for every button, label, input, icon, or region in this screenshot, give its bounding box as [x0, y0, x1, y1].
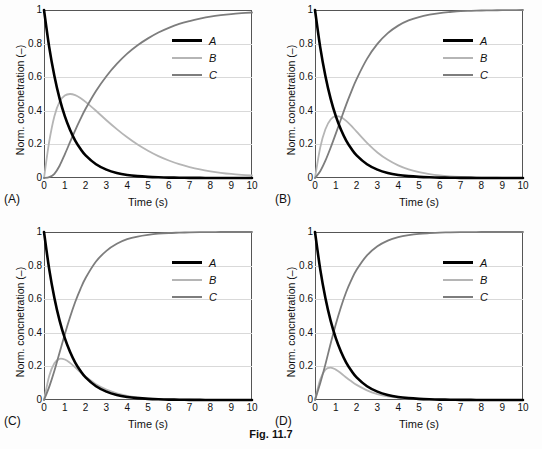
legend-label-b: B: [209, 274, 216, 286]
x-tick-label: 4: [118, 180, 136, 192]
y-tick-label: 0.6: [16, 294, 42, 304]
y-tick-labels-b: 00.20.40.60.81: [283, 10, 313, 178]
y-tick-label: 0.4: [16, 328, 42, 338]
plot-area-d: A B C: [315, 232, 523, 400]
legend-row-a-series: A: [172, 32, 246, 49]
x-tick-label: 3: [97, 180, 115, 192]
x-axis-title: Time (s): [315, 196, 523, 208]
curve-b: [315, 368, 523, 400]
x-tick-label: 6: [431, 180, 449, 192]
plot-area-c: A B C: [44, 232, 252, 400]
x-tick-label: 8: [201, 180, 219, 192]
panel-b: Norm. concnetration (–) 00.20.40.60.81 A…: [271, 0, 542, 222]
x-tick-label: 9: [222, 402, 240, 414]
panel-a: Norm. concnetration (–) 00.20.40.60.81 A…: [0, 0, 271, 222]
panel-d: Norm. concnetration (–) 00.20.40.60.81 A…: [271, 222, 542, 444]
x-tick-label: 7: [181, 180, 199, 192]
x-tick-label: 0: [306, 180, 324, 192]
x-tick-label: 1: [56, 180, 74, 192]
legend-label-c: C: [209, 69, 217, 81]
y-tick-label: 0.2: [16, 139, 42, 149]
x-tick-label: 8: [472, 402, 490, 414]
y-tick-label: 1: [287, 5, 313, 15]
x-tick-label: 9: [493, 402, 511, 414]
y-tick-label: 0.8: [287, 261, 313, 271]
x-axis-title: Time (s): [44, 196, 252, 208]
legend-row-b-series: B: [443, 49, 517, 66]
legend-swatch-a-icon: [172, 261, 202, 264]
x-tick-label: 6: [160, 402, 178, 414]
legend-c: A B C: [172, 254, 246, 305]
legend-label-b: B: [480, 52, 487, 64]
legend-row-c-series: C: [172, 66, 246, 83]
legend-label-a: A: [209, 257, 216, 269]
x-tick-label: 4: [389, 180, 407, 192]
panel-label-c: (C): [4, 414, 21, 428]
x-tick-labels-d: 012345678910: [315, 402, 523, 416]
x-tick-label: 6: [160, 180, 178, 192]
x-tick-label: 0: [35, 180, 53, 192]
figure-caption: Fig. 11.7: [0, 428, 542, 440]
plot-area-a: A B C: [44, 10, 252, 178]
x-tick-label: 1: [327, 402, 345, 414]
legend-label-c: C: [209, 291, 217, 303]
y-tick-label: 0.6: [287, 294, 313, 304]
x-tick-labels-c: 012345678910: [44, 402, 252, 416]
legend-row-a-series: A: [443, 254, 517, 271]
x-tick-label: 2: [348, 180, 366, 192]
x-tick-label: 7: [452, 180, 470, 192]
y-tick-label: 0.8: [287, 39, 313, 49]
x-tick-label: 9: [222, 180, 240, 192]
x-tick-label: 1: [327, 180, 345, 192]
y-tick-label: 0.2: [287, 361, 313, 371]
y-tick-labels-a: 00.20.40.60.81: [12, 10, 42, 178]
y-tick-label: 0.2: [287, 139, 313, 149]
x-tick-label: 10: [243, 402, 261, 414]
legend-label-a: A: [480, 35, 487, 47]
y-tick-label: 0.8: [16, 39, 42, 49]
legend-swatch-c-icon: [443, 296, 473, 298]
y-tick-label: 1: [16, 227, 42, 237]
x-tick-label: 2: [77, 402, 95, 414]
x-tick-label: 2: [77, 180, 95, 192]
legend-row-c-series: C: [443, 66, 517, 83]
y-tick-label: 0.4: [287, 328, 313, 338]
legend-b: A B C: [443, 32, 517, 83]
panel-label-a: (A): [4, 192, 20, 206]
panel-c: Norm. concnetration (–) 00.20.40.60.81 A…: [0, 222, 271, 444]
x-tick-label: 5: [410, 402, 428, 414]
x-tick-label: 2: [348, 402, 366, 414]
x-tick-label: 3: [368, 402, 386, 414]
y-tick-labels-c: 00.20.40.60.81: [12, 232, 42, 400]
y-tick-label: 0.4: [287, 106, 313, 116]
y-tick-label: 0.6: [287, 72, 313, 82]
legend-label-b: B: [480, 274, 487, 286]
legend-swatch-b-icon: [172, 279, 202, 281]
y-tick-label: 0.2: [16, 361, 42, 371]
legend-row-b-series: B: [172, 49, 246, 66]
x-tick-label: 3: [97, 402, 115, 414]
x-tick-label: 5: [139, 180, 157, 192]
legend-swatch-a-icon: [172, 39, 202, 42]
y-tick-label: 1: [16, 5, 42, 15]
x-tick-label: 7: [452, 402, 470, 414]
x-tick-label: 0: [306, 402, 324, 414]
legend-swatch-b-icon: [443, 279, 473, 281]
x-tick-label: 5: [139, 402, 157, 414]
legend-label-a: A: [480, 257, 487, 269]
x-tick-labels-a: 012345678910: [44, 180, 252, 194]
legend-swatch-a-icon: [443, 261, 473, 264]
legend-row-b-series: B: [172, 271, 246, 288]
x-tick-labels-b: 012345678910: [315, 180, 523, 194]
x-tick-label: 8: [201, 402, 219, 414]
x-tick-label: 6: [431, 402, 449, 414]
x-tick-label: 1: [56, 402, 74, 414]
x-tick-label: 5: [410, 180, 428, 192]
x-tick-label: 9: [493, 180, 511, 192]
legend-row-c-series: C: [172, 288, 246, 305]
x-tick-label: 8: [472, 180, 490, 192]
legend-row-a-series: A: [443, 32, 517, 49]
x-tick-label: 10: [514, 402, 532, 414]
legend-swatch-b-icon: [443, 57, 473, 59]
legend-row-c-series: C: [443, 288, 517, 305]
